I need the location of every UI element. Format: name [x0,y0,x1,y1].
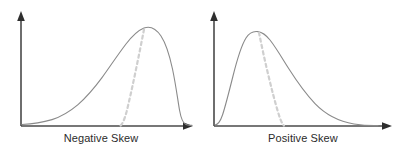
positive-skew-curve [215,31,378,125]
median-reference-line [121,30,145,126]
y-axis-arrow-icon [210,11,218,21]
x-axis-arrow-icon [382,122,392,130]
median-reference-line [259,33,284,126]
skewness-figure: Negative Skew Positive Skew [0,0,404,155]
y-axis-arrow-icon [17,11,25,21]
panel-negative-skew: Negative Skew [0,0,202,155]
panel-positive-skew: Positive Skew [202,0,404,155]
positive-skew-plot [202,0,404,134]
negative-skew-caption: Negative Skew [0,131,202,145]
positive-skew-caption: Positive Skew [202,131,404,145]
negative-skew-curve [22,27,192,125]
negative-skew-plot [0,0,202,134]
